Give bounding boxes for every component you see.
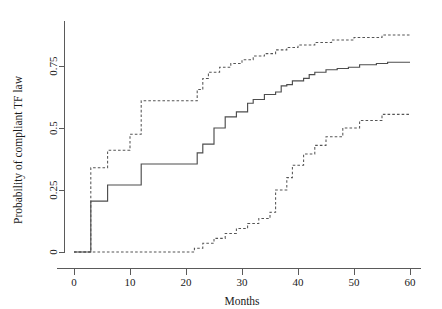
y-tick-label: 0.5 [47,121,59,135]
y-tick-label: 0 [47,249,59,255]
x-axis-title: Months [224,295,260,307]
x-tick-label: 10 [125,276,137,288]
survival-curve-plot: 00.250.50.75 0102030405060 Months Probab… [0,0,442,309]
x-tick-label: 0 [71,276,77,288]
x-tick-label: 60 [405,276,417,288]
estimate-curve [74,62,410,252]
x-tick-label: 50 [349,276,361,288]
x-tick-label: 40 [293,276,305,288]
x-tick-label: 20 [181,276,193,288]
x-axis: 0102030405060 [57,269,421,289]
curve-series-group [74,35,410,252]
chart-figure: 00.250.50.75 0102030405060 Months Probab… [0,0,442,309]
y-tick-label: 0.75 [47,56,59,76]
x-tick-label: 30 [237,276,249,288]
confidence-limit-curve [74,114,410,252]
y-tick-label: 0.25 [47,180,59,200]
y-axis-title: Probability of compliant TF law [12,75,25,224]
y-axis: 00.250.50.75 [47,21,65,254]
